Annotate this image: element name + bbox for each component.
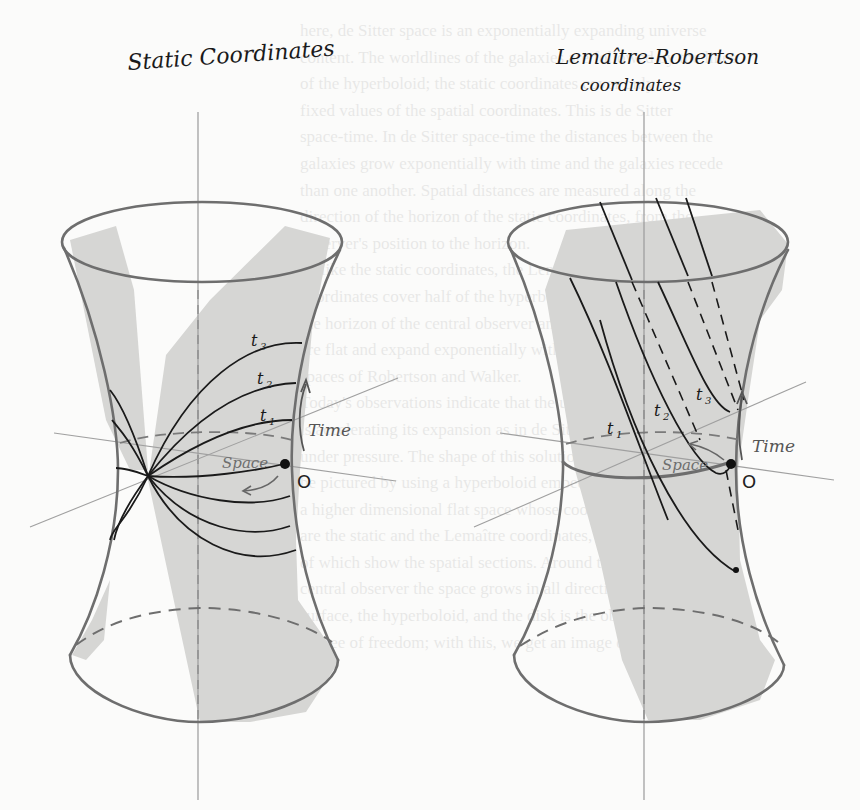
- time-label: Time: [308, 420, 351, 440]
- right-panel-lemaitre-robertson: Lemaître-Robertson coordinates: [474, 45, 834, 800]
- observer-past-point: [733, 567, 739, 573]
- label-t2-sub: 2: [265, 379, 272, 390]
- time-label: Time: [752, 436, 795, 456]
- label-t3: t: [696, 385, 703, 404]
- label-t1: t: [607, 419, 614, 438]
- origin-label: O: [297, 471, 311, 492]
- left-panel-static: Static Coordinates: [30, 36, 398, 800]
- left-panel-title: Static Coordinates: [127, 36, 336, 75]
- observer-point: [726, 459, 736, 469]
- space-label: Space: [222, 454, 268, 472]
- label-t1-sub: 1: [616, 429, 622, 440]
- right-panel-title-line1: Lemaître-Robertson: [555, 45, 759, 69]
- label-t3-sub: 3: [260, 341, 266, 352]
- label-t3: t: [251, 331, 258, 350]
- label-t2-sub: 2: [662, 411, 669, 422]
- label-t2: t: [654, 401, 661, 420]
- label-t1: t: [260, 406, 267, 425]
- observer-point: [280, 459, 290, 469]
- right-panel-title-line2: coordinates: [580, 75, 681, 95]
- label-t2: t: [257, 369, 264, 388]
- label-t1-sub: 1: [269, 416, 275, 427]
- space-label: Space: [662, 456, 708, 474]
- de-sitter-figure: Static Coordinates: [0, 0, 860, 810]
- label-t3-sub: 3: [705, 395, 711, 406]
- origin-label: O: [742, 471, 756, 492]
